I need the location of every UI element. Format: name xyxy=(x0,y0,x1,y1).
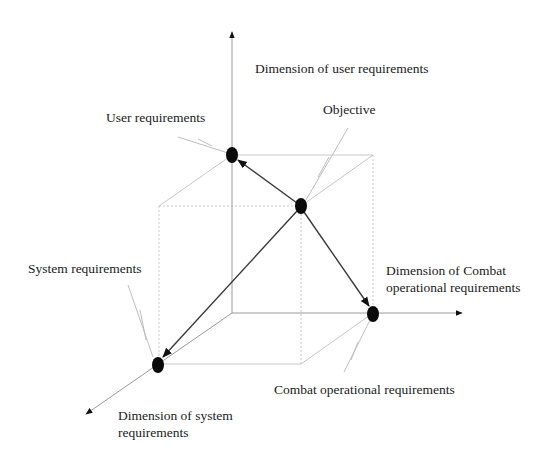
node-label-system: System requirements xyxy=(28,260,142,277)
cube-wireframe xyxy=(159,155,373,364)
axis-label-combat-line2: operational requirements xyxy=(386,279,521,296)
node-label-objective: Objective xyxy=(323,101,375,118)
node-user-requirements xyxy=(226,147,238,163)
vector-objective-to-system xyxy=(163,211,297,357)
node-combat-requirements xyxy=(367,306,379,322)
axis-label-system: Dimension of system requirements xyxy=(118,407,233,441)
axis-label-system-line1: Dimension of system xyxy=(118,407,233,424)
axis-label-combat-line1: Dimension of Combat xyxy=(386,262,521,279)
vectors xyxy=(163,160,369,357)
node-label-user: User requirements xyxy=(106,109,205,126)
axis-label-user: Dimension of user requirements xyxy=(255,60,429,77)
axis-label-combat: Dimension of Combat operational requirem… xyxy=(386,262,521,296)
node-objective xyxy=(295,198,307,214)
vector-objective-to-combat xyxy=(304,212,369,306)
vector-objective-to-user xyxy=(238,160,297,203)
node-system-requirements xyxy=(152,357,164,373)
node-label-combat: Combat operational requirements xyxy=(274,381,455,398)
axis-label-system-line2: requirements xyxy=(118,424,233,441)
leader-lines xyxy=(128,128,370,372)
axes xyxy=(86,32,462,414)
